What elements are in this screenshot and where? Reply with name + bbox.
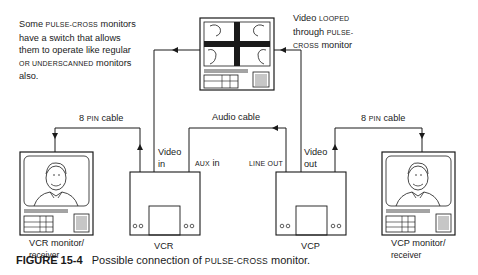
video-looped-note: Video LOOPED through PULSE- CROSS monito… bbox=[293, 12, 353, 53]
audio-cable-label: Audio cable bbox=[212, 111, 260, 123]
right-8pin-cable-label: 8 PIN cable bbox=[361, 112, 405, 125]
port-text: in bbox=[210, 158, 220, 168]
port-text: Video bbox=[158, 146, 181, 158]
cable-text: 8 bbox=[361, 113, 369, 123]
port-text: Video bbox=[304, 146, 327, 158]
vcp-device bbox=[276, 172, 346, 235]
device-text: receiver bbox=[391, 249, 445, 261]
caption-smallcaps: PULSE-CROSS bbox=[205, 256, 268, 266]
cable-text: cable bbox=[99, 113, 124, 123]
port-smallcaps: AUX bbox=[195, 160, 210, 167]
note-smallcaps: PULSE- bbox=[327, 29, 354, 36]
note-smallcaps: CROSS bbox=[293, 42, 319, 49]
cable-text: cable bbox=[381, 113, 406, 123]
note-text: Video bbox=[293, 13, 319, 23]
port-text: in bbox=[158, 158, 181, 170]
figure-caption: FIGURE 15-4 Possible connection of PULSE… bbox=[16, 254, 310, 266]
vcp-monitor-receiver bbox=[382, 152, 455, 235]
pulse-cross-switch-note: Some PULSE-CROSS monitors have a switch … bbox=[19, 18, 136, 83]
note-smallcaps: LOOPED bbox=[319, 15, 349, 22]
vcp-video-out-label: Video out bbox=[304, 146, 327, 170]
cable-smallcaps: PIN bbox=[87, 115, 99, 122]
vcr-monitor-receiver bbox=[20, 152, 93, 235]
vcr-label: VCR bbox=[154, 240, 173, 252]
vcp-line-out-label: LINE OUT bbox=[249, 160, 283, 167]
note-smallcaps: PULSE-CROSS bbox=[46, 21, 98, 28]
device-text: VCP monitor/ bbox=[391, 237, 445, 249]
cable-smallcaps: PIN bbox=[369, 115, 381, 122]
vcp-label: VCP bbox=[301, 240, 320, 252]
device-text: VCR monitor/ bbox=[29, 237, 84, 249]
left-8pin-cable-label: 8 PIN cable bbox=[79, 112, 123, 125]
note-text: also. bbox=[19, 70, 136, 83]
note-text: have a switch that allows bbox=[19, 32, 136, 45]
video-loop-in-line bbox=[274, 50, 301, 172]
pulse-cross-monitor bbox=[200, 18, 274, 90]
vcr-video-in-label: Video in bbox=[158, 146, 181, 170]
note-text: monitor bbox=[319, 40, 352, 50]
note-text: monitors bbox=[98, 19, 136, 29]
note-smallcaps: OR UNDERSCANNED bbox=[19, 60, 94, 67]
caption-text: monitor. bbox=[268, 254, 310, 266]
note-text: Some bbox=[19, 19, 46, 29]
figure-number: FIGURE 15-4 bbox=[16, 254, 83, 266]
vcr-device bbox=[130, 172, 200, 235]
note-text: monitors bbox=[94, 58, 132, 68]
note-text: through bbox=[293, 27, 327, 37]
port-text: out bbox=[304, 158, 327, 170]
caption-text: Possible connection of bbox=[92, 254, 205, 266]
cable-text: 8 bbox=[79, 113, 87, 123]
note-text: them to operate like regular bbox=[19, 44, 136, 57]
vcr-aux-in-label: AUX in bbox=[195, 157, 220, 170]
vcp-monitor-label: VCP monitor/ receiver bbox=[391, 237, 445, 261]
